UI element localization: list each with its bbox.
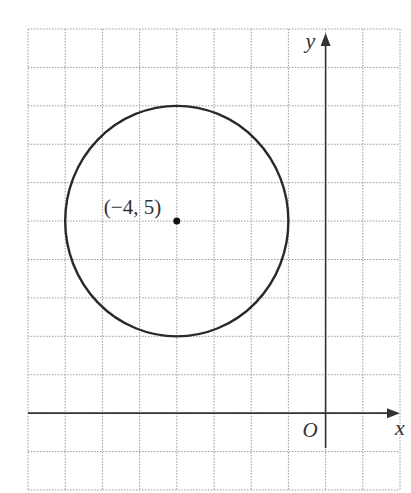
coordinate-plane: (−4, 5) O x y	[0, 0, 411, 493]
center-point	[173, 218, 180, 225]
origin-label: O	[303, 418, 318, 442]
grid-lines	[28, 29, 400, 490]
x-axis-label: x	[394, 415, 405, 440]
center-point-label: (−4, 5)	[104, 195, 161, 219]
y-axis-arrow-icon	[321, 33, 331, 46]
y-axis-label: y	[304, 28, 316, 53]
